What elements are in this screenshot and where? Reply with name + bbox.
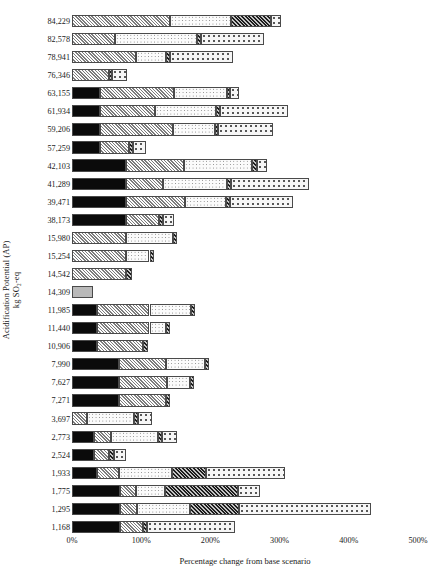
bar-segment-segment-3 <box>184 159 252 171</box>
bar-segment-segment-3 <box>136 485 165 497</box>
y-tick-label: 39,471 <box>47 197 70 206</box>
bar-segment-segment-3 <box>185 196 225 208</box>
bar-segment-segment-1 <box>72 87 100 99</box>
bar-segment-segment-2 <box>94 449 109 461</box>
bar-segment-segment-5 <box>206 467 285 479</box>
bar-segment-segment-5 <box>239 503 370 515</box>
y-axis-title: Acidification Potential (AP) kg SO₂-eq <box>0 0 24 580</box>
bar-segment-segment-4 <box>190 503 240 515</box>
bar-segment-segment-5 <box>271 15 281 27</box>
bar-segment-segment-5 <box>238 485 260 497</box>
y-tick-label: 57,259 <box>47 143 70 152</box>
x-tick-label: 500% <box>408 536 427 545</box>
bar-segment-segment-2 <box>72 250 126 262</box>
y-tick-label: 78,941 <box>47 53 70 62</box>
bar-segment-segment-1 <box>72 376 119 388</box>
bar-segment-segment-1 <box>72 159 126 171</box>
bar-row <box>72 214 174 226</box>
bar-row <box>72 15 281 27</box>
bar-row <box>72 412 152 424</box>
bar-segment-segment-2 <box>72 412 87 424</box>
bar-row <box>72 105 288 117</box>
bar-row <box>72 449 126 461</box>
bar-segment-segment-5 <box>170 51 232 63</box>
x-tick-label: 100% <box>132 536 151 545</box>
bar-row <box>72 250 154 262</box>
y-tick-label: 61,934 <box>47 107 70 116</box>
bar-segment-segment-1 <box>72 123 100 135</box>
bar-row <box>72 521 235 533</box>
bar-segment-segment-3 <box>137 503 190 515</box>
bar-segment-segment-5 <box>138 412 152 424</box>
bar-segment-segment-5 <box>114 449 126 461</box>
bar-segment-segment-4 <box>231 15 271 27</box>
y-tick-label: 11,985 <box>48 306 70 315</box>
bar-row <box>72 394 170 406</box>
bar-row <box>72 467 285 479</box>
bar-segment-segment-1 <box>72 394 119 406</box>
bar-row <box>72 33 264 45</box>
bar-segment-segment-1 <box>72 196 126 208</box>
bar-row <box>72 503 371 515</box>
bar-segment-segment-2 <box>97 467 119 479</box>
y-tick-label: 41,289 <box>47 179 70 188</box>
bar-row <box>72 141 146 153</box>
bar-segment-segment-2 <box>119 358 166 370</box>
bar-segment-segment-2 <box>119 394 166 406</box>
bar-segment-segment-5 <box>230 196 294 208</box>
bar-segment-segment-5 <box>163 214 174 226</box>
bar-segment-segment-2 <box>100 141 129 153</box>
bar-segment-segment-4 <box>191 304 195 316</box>
y-tick-label: 42,103 <box>47 161 70 170</box>
y-tick-label: 1,168 <box>52 522 70 531</box>
bar-segment-segment-1 <box>72 358 119 370</box>
bar-segment-segment-4 <box>143 340 149 352</box>
bar-row <box>72 232 177 244</box>
y-tick-label: 7,627 <box>52 378 70 387</box>
bar-segment-segment-4 <box>126 268 132 280</box>
bar-segment-segment-3 <box>111 431 158 443</box>
bar-row <box>72 69 127 81</box>
bar-segment-segment-2 <box>100 87 175 99</box>
y-tick-label: 10,906 <box>47 342 70 351</box>
y-tick-label: 2,524 <box>52 450 70 459</box>
bar-segment-segment-5 <box>162 431 177 443</box>
bar-segment-segment-2 <box>72 15 170 27</box>
bar-segment-base <box>72 286 93 298</box>
bar-segment-segment-2 <box>126 178 163 190</box>
bar-segment-segment-5 <box>112 69 127 81</box>
y-axis-title-line2: kg SO₂-eq <box>12 241 22 340</box>
bar-segment-segment-2 <box>72 232 126 244</box>
bar-segment-segment-3 <box>119 467 172 479</box>
y-tick-label: 38,173 <box>47 215 70 224</box>
y-tick-label: 84,229 <box>47 17 70 26</box>
bar-segment-segment-2 <box>97 340 143 352</box>
y-tick-label: 14,542 <box>47 270 70 279</box>
y-tick-label: 14,309 <box>47 288 70 297</box>
y-axis-tick-labels: 84,22982,57878,94176,34663,15561,93459,2… <box>28 12 70 536</box>
bar-segment-segment-3 <box>155 105 216 117</box>
bar-segment-segment-4 <box>172 467 207 479</box>
plot-area <box>72 12 418 536</box>
bar-segment-segment-1 <box>72 449 94 461</box>
bar-segment-segment-3 <box>167 376 189 388</box>
bar-segment-segment-4 <box>165 485 238 497</box>
bar-row <box>72 159 267 171</box>
bar-segment-segment-5 <box>133 141 146 153</box>
bar-segment-segment-2 <box>120 485 135 497</box>
bar-segment-segment-4 <box>166 322 170 334</box>
bar-segment-segment-2 <box>126 196 186 208</box>
bar-segment-segment-5 <box>230 87 239 99</box>
bar-segment-segment-3 <box>170 15 231 27</box>
bar-segment-segment-1 <box>72 521 120 533</box>
bar-segment-segment-5 <box>257 159 267 171</box>
y-tick-label: 11,440 <box>48 324 70 333</box>
bar-segment-segment-3 <box>173 123 215 135</box>
bar-row <box>72 178 309 190</box>
bar-segment-segment-2 <box>100 105 155 117</box>
bar-segment-segment-2 <box>97 304 150 316</box>
y-tick-label: 2,773 <box>52 432 70 441</box>
bar-row <box>72 358 209 370</box>
y-tick-label: 59,206 <box>47 125 70 134</box>
bar-segment-segment-3 <box>150 304 192 316</box>
